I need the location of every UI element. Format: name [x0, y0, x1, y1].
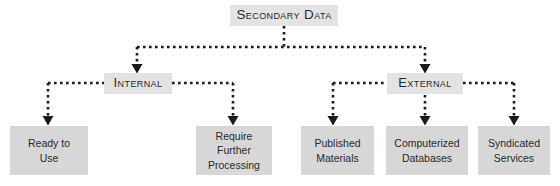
node-require-further-processing-label: Require Further Processing: [208, 129, 260, 172]
node-computerized-databases-label: Computerized Databases: [394, 136, 459, 164]
secondary-data-diagram: Secondary Data Internal External Ready t…: [0, 0, 560, 186]
node-syndicated-services[interactable]: Syndicated Services: [478, 126, 550, 175]
node-computerized-databases[interactable]: Computerized Databases: [386, 126, 468, 175]
arrowhead-require: [228, 116, 239, 126]
node-require-further-processing[interactable]: Require Further Processing: [196, 126, 272, 175]
node-internal-label: Internal: [114, 76, 163, 90]
arrowhead-databases: [420, 116, 431, 126]
node-secondary-data-label: Secondary Data: [236, 8, 331, 23]
node-ready-to-use-label: Ready to Use: [28, 136, 70, 164]
node-secondary-data[interactable]: Secondary Data: [230, 5, 338, 26]
node-external-label: External: [398, 76, 451, 90]
arrowhead-published: [328, 116, 339, 126]
arrowhead-syndicated: [509, 116, 520, 126]
node-external[interactable]: External: [387, 73, 463, 94]
node-syndicated-services-label: Syndicated Services: [488, 136, 540, 164]
arrowhead-ready: [43, 116, 54, 126]
node-published-materials[interactable]: Published Materials: [301, 126, 374, 175]
node-published-materials-label: Published Materials: [314, 136, 360, 164]
node-ready-to-use[interactable]: Ready to Use: [10, 126, 88, 175]
node-internal[interactable]: Internal: [104, 73, 172, 94]
